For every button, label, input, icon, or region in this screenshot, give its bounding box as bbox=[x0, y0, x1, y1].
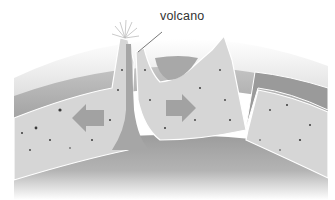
volcano-label: volcano bbox=[160, 9, 205, 23]
eruption-burst-icon bbox=[112, 20, 139, 38]
earth-cross-section-diagram bbox=[0, 0, 335, 200]
